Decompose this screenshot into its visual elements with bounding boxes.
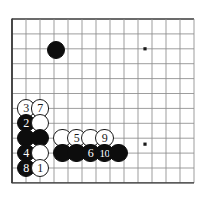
stone-move-number: 10 xyxy=(99,147,109,158)
stone-move-number: 9 xyxy=(102,132,108,144)
star-point xyxy=(143,143,146,146)
stone-move-number: 3 xyxy=(23,102,29,114)
stone-move-number: 8 xyxy=(23,161,29,173)
go-stone-black xyxy=(109,144,127,162)
go-board-diagram: 37259461081 xyxy=(0,0,206,200)
stone-move-number: 1 xyxy=(37,161,43,173)
stone-move-number: 2 xyxy=(23,117,29,129)
stone-move-number: 5 xyxy=(74,132,80,144)
star-point xyxy=(143,47,146,50)
stone-move-number: 7 xyxy=(37,102,43,114)
stone-move-number: 6 xyxy=(88,147,94,159)
stone-move-number: 4 xyxy=(23,147,29,159)
